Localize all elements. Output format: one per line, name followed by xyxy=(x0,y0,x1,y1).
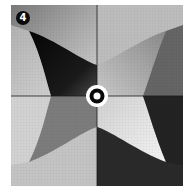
star-pattern-graphic xyxy=(11,5,183,186)
panel-label-badge: 4 xyxy=(16,11,30,25)
figure-panel xyxy=(11,5,183,186)
